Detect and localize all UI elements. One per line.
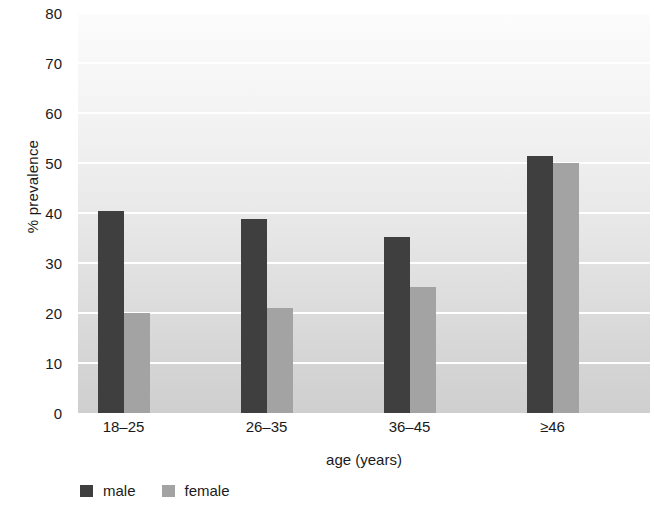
bar-male-46 [527, 156, 553, 414]
legend-item-male: male [80, 483, 136, 498]
bar-male-3645 [384, 237, 410, 414]
bar-male-2635 [241, 219, 267, 413]
x-axis-tick-label: 18–25 [74, 419, 174, 434]
plot-area [78, 13, 650, 413]
legend-label-female: female [185, 483, 230, 498]
y-axis-tick-label: 10 [2, 356, 62, 371]
x-axis-tick-label: 26–35 [217, 419, 317, 434]
x-axis-title: age (years) [78, 451, 650, 468]
legend-swatch-female-icon [162, 485, 175, 497]
bar-male-1825 [98, 211, 124, 414]
y-axis-tick-label: 40 [2, 206, 62, 221]
x-axis-tick-label: ≥46 [503, 419, 603, 434]
y-axis-tick-label: 30 [2, 256, 62, 271]
x-axis-tick-label: 36–45 [360, 419, 460, 434]
bar-chart: % prevalence 01020304050607080 18–2526–3… [0, 0, 654, 505]
x-axis-tick-labels: 18–2526–3536–45≥46 [78, 419, 650, 441]
legend-swatch-male-icon [80, 485, 93, 497]
chart-legend: male female [80, 483, 230, 498]
legend-label-male: male [103, 483, 136, 498]
y-axis-tick-label: 70 [2, 56, 62, 71]
bar-female-46 [553, 163, 579, 413]
y-axis-tick-labels: 01020304050607080 [0, 0, 70, 430]
y-axis-tick-label: 20 [2, 306, 62, 321]
bar-female-1825 [124, 313, 150, 413]
legend-item-female: female [162, 483, 230, 498]
y-axis-tick-label: 60 [2, 106, 62, 121]
bar-female-2635 [267, 308, 293, 413]
y-axis-tick-label: 80 [2, 6, 62, 21]
bars-layer [78, 13, 650, 413]
y-axis-tick-label: 0 [2, 406, 62, 421]
bar-female-3645 [410, 287, 436, 413]
y-axis-tick-label: 50 [2, 156, 62, 171]
